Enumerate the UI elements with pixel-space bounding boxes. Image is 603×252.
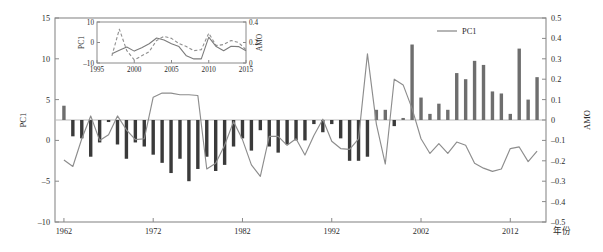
bar [330,120,333,124]
x-axis-label: 年份 [553,225,571,236]
bar [419,98,422,120]
legend-label-pc1: PC1 [462,27,476,36]
y-ticklabel-right: 0.1 [551,96,561,105]
bar [393,120,396,126]
y-ticklabel-right: –0.4 [550,198,565,207]
inset-x-ticklabel: 2015 [239,66,254,74]
y-ticklabel-right: 0.4 [551,34,561,43]
inset-x-ticklabel: 2010 [202,66,217,74]
bar [366,120,369,157]
y-ticklabel-right: –0.1 [550,136,565,145]
y-ticklabel-right: 0.2 [551,75,561,84]
bar [384,110,387,120]
bar [437,104,440,120]
bar [455,73,458,120]
y-axis-label-right: AMO [582,110,592,130]
bar [152,120,155,155]
y-ticklabel-left: 10 [42,55,50,64]
inset-y-ticklabel-left: 10 [87,19,95,27]
bar [178,120,181,159]
inset-x-ticklabel: 2005 [164,66,179,74]
bar [241,120,244,138]
inset-y-ticklabel-left: 0 [90,39,94,47]
bar [160,120,163,163]
y-axis-right [542,18,546,222]
inset-y-axis-label-right: AMO [255,33,264,51]
bar [196,120,199,169]
bar [509,114,512,120]
inset-background [97,22,246,63]
x-ticklabel: 1982 [234,227,250,236]
bar [401,118,404,120]
bar [89,120,92,157]
inset-x-ticklabel: 1995 [90,66,105,74]
y-axis-label-left: PC1 [18,113,28,128]
x-ticklabel: 1992 [324,227,340,236]
bar [535,77,538,120]
x-ticklabel: 2012 [502,227,518,236]
inset-x-ticklabel: 2000 [127,66,142,74]
bar [169,120,172,173]
bar [303,120,306,140]
x-ticklabel: 2002 [413,227,429,236]
bar [518,49,521,120]
bar [116,120,119,144]
y-ticklabel-left: –10 [37,218,50,227]
bar [285,120,288,144]
y-ticklabel-right: –0.3 [550,177,565,186]
bar [339,120,342,138]
x-ticklabel: 1962 [56,227,72,236]
bar [428,114,431,120]
y-ticklabel-right: 0 [551,116,555,125]
y-ticklabel-left: –5 [41,177,50,186]
bar [526,100,529,120]
bar [259,120,262,130]
inset-y-axis-label-left: PC1 [77,36,86,49]
bar [205,120,208,157]
bar [107,120,110,122]
bar [71,120,74,136]
bar [294,120,297,140]
y-ticklabel-right: 0.3 [551,55,561,64]
bar [473,61,476,120]
x-ticklabel: 1972 [145,227,161,236]
bar [446,110,449,120]
y-ticklabel-left: 5 [46,96,50,105]
bar [464,79,467,120]
bar [187,120,190,181]
inset-y-ticklabel-right: 0.4 [249,19,258,27]
bar [348,120,351,161]
inset-plot [97,22,246,63]
bar [250,120,253,151]
y-ticklabel-left: 0 [46,136,50,145]
y-ticklabel-right: 0.5 [551,14,561,23]
chart-svg: –10–5051015PC1–0.5–0.4–0.3–0.2–0.100.10.… [0,0,603,252]
bar [312,120,315,124]
y-ticklabel-left: 15 [42,14,50,23]
bar [62,106,65,120]
bar [491,91,494,120]
x-axis [64,218,510,222]
bar [500,93,503,120]
y-ticklabel-right: –0.2 [550,157,565,166]
bar [125,120,128,159]
bar [482,65,485,120]
figure-container: –10–5051015PC1–0.5–0.4–0.3–0.2–0.100.10.… [0,0,603,252]
